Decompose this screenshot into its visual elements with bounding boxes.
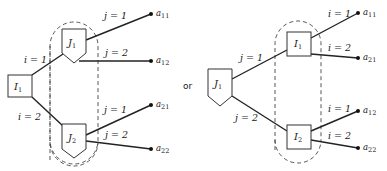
left-edge-j2-j2 [86,141,151,149]
right-payoff-a21: a21 [363,52,376,64]
right-payoff-a11: a11 [363,7,376,19]
left-payoff-a12: a12 [156,55,169,67]
right-leaf-dot-a12 [356,109,360,113]
right-edge-i2-i2 [311,140,358,148]
left-leaf-dot-a21 [149,103,153,107]
right-branch-label-j2: j = 2 [233,112,258,123]
right-tree: J1 I1 I2 j = 1 j = 2 i = 1 i = 2 i = 1 i… [208,7,376,163]
left-payoff-a11: a11 [156,8,169,20]
left-leaf-dot-a22 [149,147,153,151]
left-payoff-a21: a21 [156,99,169,111]
right-leaf-dot-a21 [356,56,360,60]
left-leaf-label-j1-bottom: j = 1 [102,104,127,115]
left-leaf-dot-a12 [149,59,153,63]
left-leaf-label-j2-top: j = 2 [103,47,128,58]
right-payoff-a12: a12 [363,105,376,117]
right-edge-i2-i1 [311,111,358,131]
left-payoff-a22: a22 [156,143,169,155]
left-tree: I1 J1 J2 i = 1 i = 2 j = 1 j = 2 j = 1 j… [8,8,169,166]
right-leaf-dot-a22 [356,146,360,150]
separator-or: or [183,81,193,91]
right-branch-label-j1: j = 1 [238,52,263,63]
right-leaf-dot-a11 [356,11,360,15]
right-leaf-label-i1-bottom: i = 1 [328,103,351,114]
right-payoff-a22: a22 [363,142,376,154]
right-edge-i1-i2 [311,54,358,58]
left-leaf-dot-a11 [149,12,153,16]
right-leaf-label-i2-top: i = 2 [328,42,351,53]
left-branch-label-i1: i = 1 [24,54,47,65]
right-leaf-label-i1-top: i = 1 [328,8,351,19]
game-tree-diagram: I1 J1 J2 i = 1 i = 2 j = 1 j = 2 j = 1 j… [0,0,387,171]
left-branch-label-i2: i = 2 [18,111,41,122]
left-leaf-label-j1-top: j = 1 [102,10,127,21]
right-leaf-label-i2-bottom: i = 2 [328,130,351,141]
left-leaf-label-j2-bottom: j = 2 [103,129,128,140]
